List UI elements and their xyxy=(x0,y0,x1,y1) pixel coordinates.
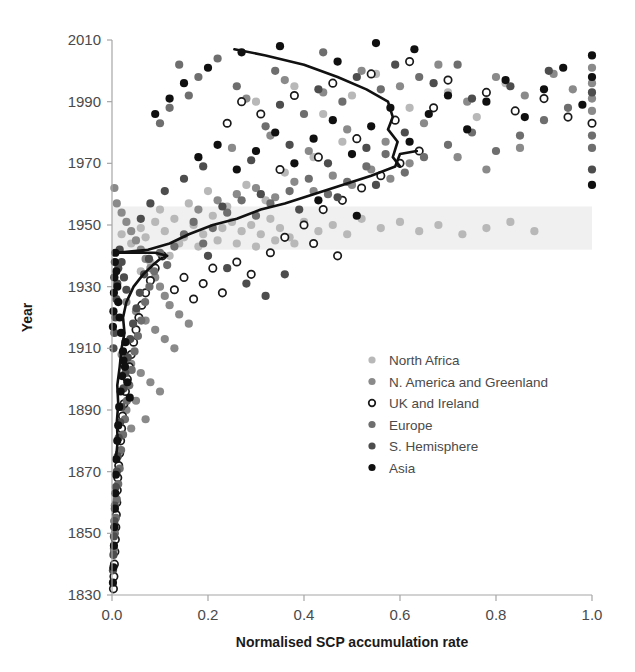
x-tick-label: 0.6 xyxy=(390,606,411,623)
x-tick-label: 0.4 xyxy=(294,606,315,623)
data-point xyxy=(315,153,322,160)
x-axis-title: Normalised SCP accumulation rate xyxy=(236,634,469,650)
legend-marker-icon xyxy=(368,356,375,363)
data-point xyxy=(367,122,375,130)
data-point xyxy=(343,125,351,133)
y-tick-label: 1870 xyxy=(68,463,101,480)
data-point xyxy=(233,239,241,247)
data-point xyxy=(329,221,337,229)
data-point xyxy=(516,144,524,152)
data-point xyxy=(430,79,438,87)
data-point xyxy=(141,298,149,306)
shaded-band xyxy=(112,207,592,250)
data-point xyxy=(569,85,577,93)
legend-label: N. America and Greenland xyxy=(389,375,548,390)
data-point xyxy=(314,85,322,93)
data-point xyxy=(348,91,356,99)
y-tick-label: 1910 xyxy=(68,339,101,356)
data-point xyxy=(146,199,154,207)
legend-marker-icon xyxy=(368,464,375,471)
data-point xyxy=(257,110,264,117)
data-point xyxy=(281,234,288,241)
legend-item-s-hemisphere[interactable]: S. Hemisphere xyxy=(368,439,478,454)
data-point xyxy=(588,88,596,96)
data-point xyxy=(118,209,126,217)
data-point xyxy=(151,218,159,226)
data-point xyxy=(142,415,150,423)
data-point xyxy=(137,316,145,324)
data-point xyxy=(118,230,126,238)
data-point xyxy=(185,91,193,99)
data-point xyxy=(175,310,183,318)
data-point xyxy=(219,289,226,296)
legend-item-north-africa[interactable]: North Africa xyxy=(368,353,460,368)
y-tick-label: 2010 xyxy=(68,31,101,48)
data-point xyxy=(483,89,490,96)
data-point xyxy=(386,175,394,183)
data-point xyxy=(109,563,117,571)
data-point xyxy=(252,98,260,106)
legend-marker-icon xyxy=(368,378,375,385)
data-point xyxy=(290,159,298,167)
data-point xyxy=(146,378,154,386)
data-point xyxy=(334,252,341,259)
legend-item-asia[interactable]: Asia xyxy=(368,461,415,476)
legend-item-n-america-and-greenland[interactable]: N. America and Greenland xyxy=(368,375,548,390)
data-point xyxy=(353,73,361,81)
data-point xyxy=(109,323,117,331)
data-point xyxy=(502,76,510,84)
data-point xyxy=(588,165,596,173)
data-point xyxy=(348,150,356,158)
y-tick-label: 1850 xyxy=(68,524,101,541)
data-point xyxy=(281,270,289,278)
data-point xyxy=(358,184,365,191)
legend-marker-icon xyxy=(368,442,375,449)
data-point xyxy=(252,242,260,250)
data-point xyxy=(247,221,255,229)
data-point xyxy=(161,227,169,235)
data-point xyxy=(171,286,178,293)
data-point xyxy=(214,141,222,149)
data-point xyxy=(377,224,385,232)
data-point xyxy=(410,45,418,53)
data-point xyxy=(353,212,361,220)
data-point xyxy=(137,369,145,377)
data-point xyxy=(175,61,183,69)
data-point xyxy=(121,363,129,371)
data-point xyxy=(588,181,596,189)
data-point xyxy=(564,113,571,120)
data-point xyxy=(242,279,250,287)
data-point xyxy=(362,144,370,152)
data-point xyxy=(540,116,548,124)
data-point xyxy=(134,332,142,340)
data-point xyxy=(238,227,246,235)
data-point xyxy=(247,156,255,164)
data-point xyxy=(129,320,137,328)
data-point xyxy=(320,206,327,213)
data-point xyxy=(126,394,134,402)
data-point xyxy=(406,138,414,146)
data-point xyxy=(137,215,145,223)
data-point xyxy=(372,39,380,47)
data-point xyxy=(145,255,153,263)
data-point xyxy=(286,187,294,195)
data-point xyxy=(156,283,164,291)
data-point xyxy=(396,218,404,226)
data-point xyxy=(180,79,188,87)
data-point xyxy=(238,98,245,105)
x-tick-label: 0.0 xyxy=(102,606,123,623)
data-point xyxy=(156,119,164,127)
data-point xyxy=(271,236,279,244)
legend-item-europe[interactable]: Europe xyxy=(368,418,432,433)
data-point xyxy=(200,280,207,287)
data-point xyxy=(406,58,413,65)
data-point xyxy=(276,101,284,109)
data-point xyxy=(540,85,548,93)
data-point xyxy=(300,110,308,118)
data-point xyxy=(343,230,351,238)
data-point xyxy=(132,304,140,312)
legend-item-uk-and-ireland[interactable]: UK and Ireland xyxy=(369,396,479,411)
y-tick-label: 1970 xyxy=(68,154,101,171)
data-point xyxy=(377,85,385,93)
legend-label: Europe xyxy=(389,418,433,433)
